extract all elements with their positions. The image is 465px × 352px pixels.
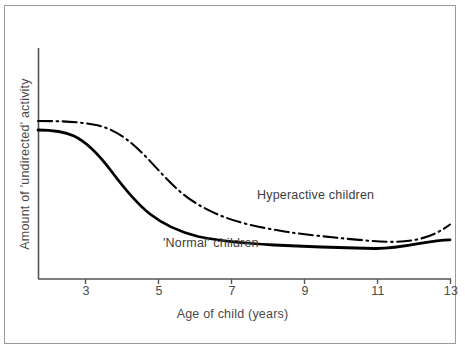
x-axis-title: Age of child (years)	[0, 307, 465, 321]
y-axis-title: Amount of 'undirected' activity	[18, 54, 32, 274]
series-label-normal: 'Normal' children	[163, 236, 259, 250]
x-tick-label-5: 5	[144, 284, 174, 298]
figure-container: 3 5 7 9 11 13 Age of child (years) Amoun…	[0, 0, 465, 352]
x-tick-label-9: 9	[290, 284, 320, 298]
x-tick-label-13: 13	[436, 284, 465, 298]
series-label-hyperactive: Hyperactive children	[257, 188, 374, 202]
plot-canvas	[0, 0, 465, 352]
x-tick-label-11: 11	[363, 284, 393, 298]
x-tick-label-3: 3	[71, 284, 101, 298]
series-line-hyperactive	[38, 121, 450, 242]
series-line-normal	[38, 130, 450, 249]
x-tick-label-7: 7	[217, 284, 247, 298]
